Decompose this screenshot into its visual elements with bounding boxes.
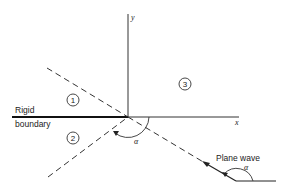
origin-angle-label: α bbox=[134, 137, 139, 146]
region-1-marker: 1 bbox=[67, 94, 79, 106]
y-axis-label: y bbox=[130, 13, 135, 22]
region-1-label: 1 bbox=[71, 96, 76, 105]
plane-wave-ray bbox=[205, 163, 236, 181]
origin-angle-arc bbox=[115, 117, 149, 138]
region-2-label: 2 bbox=[71, 134, 76, 143]
region-2-marker: 2 bbox=[67, 132, 79, 144]
region-3-marker: 3 bbox=[179, 78, 191, 90]
plane-wave-arrow-icon bbox=[202, 161, 210, 167]
x-axis-label: x bbox=[234, 118, 239, 127]
wave-angle-arc bbox=[224, 168, 253, 181]
incident-dashed-line bbox=[128, 117, 205, 163]
diffraction-diagram: y x Rigid boundary α Plane wave α 1 2 3 bbox=[0, 0, 286, 194]
rigid-label: Rigid bbox=[15, 105, 35, 115]
wave-angle-label: α bbox=[244, 163, 249, 172]
region-3-label: 3 bbox=[183, 80, 188, 89]
upper-dashed-line bbox=[47, 68, 128, 117]
lower-dashed-line bbox=[48, 117, 128, 177]
boundary-label: boundary bbox=[15, 119, 51, 129]
plane-wave-label: Plane wave bbox=[216, 153, 260, 163]
